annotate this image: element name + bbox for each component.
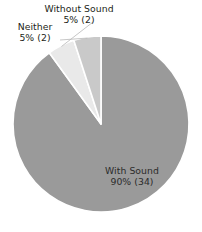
slice-label-with-sound-value: 90% (34): [90, 177, 174, 188]
slice-label-with-sound: With Sound 90% (34): [90, 166, 174, 188]
pie-chart: Without Sound 5% (2) Neither 5% (2) With…: [0, 0, 202, 232]
slice-label-neither: Neither 5% (2): [2, 22, 68, 44]
slice-label-neither-value: 5% (2): [2, 33, 68, 44]
